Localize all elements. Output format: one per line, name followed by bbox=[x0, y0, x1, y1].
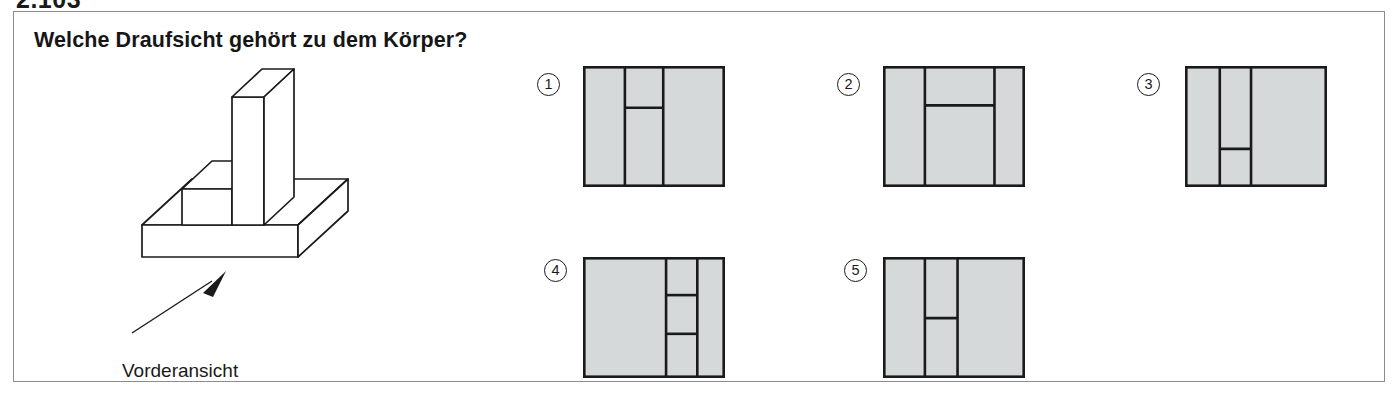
option-top-view-5[interactable] bbox=[883, 257, 1025, 378]
option-number-3: 3 bbox=[1137, 73, 1160, 96]
option-top-view-3[interactable] bbox=[1185, 66, 1327, 187]
page-title: Welche Draufsicht gehört zu dem Körper? bbox=[34, 28, 468, 53]
front-view-arrow bbox=[114, 267, 354, 342]
option-top-view-4[interactable] bbox=[583, 257, 725, 378]
front-view-label: Vorderansicht bbox=[122, 360, 238, 382]
option-number-1: 1 bbox=[537, 73, 560, 96]
exercise-panel: Welche Draufsicht gehört zu dem Körper? bbox=[13, 11, 1385, 382]
option-top-view-1[interactable] bbox=[583, 66, 725, 187]
option-number-2: 2 bbox=[837, 73, 860, 96]
option-number-5: 5 bbox=[844, 259, 867, 282]
option-top-view-2[interactable] bbox=[883, 66, 1025, 187]
option-number-4: 4 bbox=[544, 259, 567, 282]
isometric-solid-body bbox=[134, 57, 424, 282]
